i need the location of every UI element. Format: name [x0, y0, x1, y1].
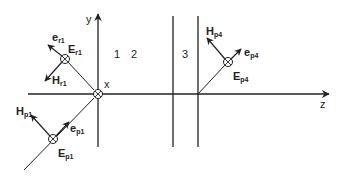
e-p4-label: ep4	[244, 46, 258, 60]
e-p1-into-plane-icon	[49, 135, 58, 144]
y-axis-label: y	[86, 13, 92, 25]
e-r1-into-plane-icon	[61, 55, 70, 64]
y-axis: y	[86, 13, 98, 147]
h-p4-arrow	[207, 38, 225, 59]
reflected-wave: er1 Er1 Hr1	[45, 31, 94, 90]
E-p4-label: Ep4	[233, 70, 249, 84]
E-r1-label: Er1	[68, 43, 82, 56]
incident-wave: ep1 Hp1 Ep1	[16, 98, 94, 170]
e-p1-arrow	[56, 122, 69, 136]
region-label-1: 1	[114, 48, 120, 60]
region-label-2: 2	[131, 48, 137, 60]
e-r1-arrow	[48, 45, 62, 56]
h-p1-label: Hp1	[16, 105, 32, 119]
e-p4-into-plane-icon	[224, 58, 233, 67]
h-p4-label: Hp4	[206, 25, 222, 39]
region-label-3: 3	[182, 48, 188, 60]
E-p1-label: Ep1	[58, 147, 74, 161]
h-p1-arrow	[31, 115, 50, 136]
e-r1-label: er1	[52, 31, 65, 44]
z-axis: z	[28, 94, 329, 110]
z-axis-label: z	[320, 98, 326, 110]
transmitted-wave: Hp4 ep4 Ep4	[198, 25, 258, 94]
wave-diagram: z y 1 2 3 x ep1 Hp1 Ep1	[0, 0, 345, 177]
h-r1-label: Hr1	[52, 74, 67, 87]
origin-x-into-plane-icon	[94, 90, 103, 99]
e-p1-label: ep1	[70, 122, 84, 136]
e-p4-arrow	[231, 49, 241, 59]
x-axis-label: x	[104, 78, 110, 90]
